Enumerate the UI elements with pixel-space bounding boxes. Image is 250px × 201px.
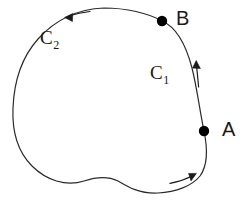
point-a-marker [199, 126, 209, 136]
point-label-a: A [222, 119, 235, 139]
c2-top-arrow-head [65, 14, 73, 22]
arc-label-c1-subscript: 1 [163, 73, 169, 87]
figure-canvas: C1 C2 A B [0, 0, 250, 201]
c1-arrow-head [193, 61, 201, 69]
c2-bottom-arrow-head [189, 173, 197, 181]
arc-label-c2-letter: C [40, 27, 53, 48]
curve-diagram-svg [0, 0, 250, 201]
point-label-b: B [176, 8, 189, 28]
c2-bottom-direction-arrow [170, 173, 196, 183]
arc-label-c2-subscript: 2 [53, 38, 59, 52]
c2-bottom-arrow-shaft [170, 176, 192, 183]
point-b-marker [157, 16, 167, 26]
arc-label-c1: C1 [150, 63, 169, 86]
arc-label-c1-letter: C [150, 62, 163, 83]
arc-label-c2: C2 [40, 28, 59, 51]
